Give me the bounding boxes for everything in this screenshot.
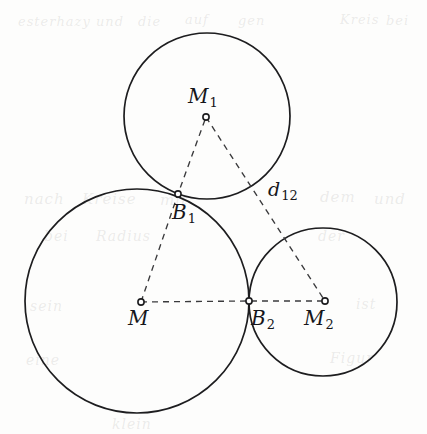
segment-M1-M2: [206, 117, 325, 301]
geometry-canvas: [0, 0, 427, 434]
point-marker-M1: [203, 114, 209, 120]
dashed-segments-group: [141, 117, 325, 302]
label-B2-base: B: [251, 306, 266, 330]
label-M2-subscript: 2: [325, 317, 333, 332]
label-center-M1: M1: [188, 86, 217, 106]
label-B1-subscript: 1: [188, 211, 196, 226]
label-distance-d12: d12: [268, 180, 297, 199]
label-M1-base: M: [188, 84, 208, 108]
label-point-B2: B2: [251, 308, 274, 328]
label-B2-subscript: 2: [267, 317, 275, 332]
point-marker-B2: [246, 298, 252, 304]
label-B1-base: B: [172, 200, 187, 224]
label-center-M2: M2: [304, 308, 333, 328]
label-M2-base: M: [304, 306, 324, 330]
label-d12-subscript: 12: [281, 188, 298, 203]
label-M-base: M: [128, 306, 148, 330]
point-marker-B1: [175, 191, 181, 197]
label-point-B1: B1: [172, 202, 195, 222]
point-marker-M2: [322, 298, 328, 304]
circle-M: [25, 189, 249, 413]
point-marker-M: [138, 299, 144, 305]
segment-M-B2-M2: [141, 301, 325, 302]
geometry-figure: esterhazyunddieaufgenKreisbeinachKreisem…: [0, 0, 427, 434]
label-d12-base: d: [268, 178, 280, 200]
label-M1-subscript: 1: [209, 95, 217, 110]
label-center-M: M: [128, 308, 148, 328]
point-markers-group: [138, 114, 328, 305]
